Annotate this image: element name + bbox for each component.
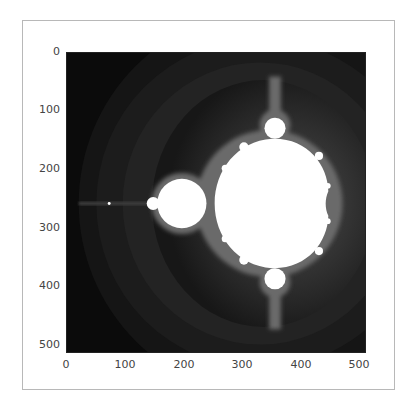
y-tick-label: 500 (24, 339, 60, 350)
y-tick-label: 100 (24, 104, 60, 115)
x-tick-label: 100 (105, 359, 145, 370)
y-tick-label: 200 (24, 163, 60, 174)
x-tick-label: 200 (164, 359, 204, 370)
fractal-image (66, 52, 366, 353)
y-tick-label: 400 (24, 280, 60, 291)
mandelbrot-heatmap (67, 53, 366, 353)
x-tick-label: 500 (339, 359, 379, 370)
y-tick-label: 0 (24, 46, 60, 57)
x-tick-label: 300 (222, 359, 262, 370)
x-tick-label: 0 (46, 359, 86, 370)
y-tick-label: 300 (24, 222, 60, 233)
x-tick-label: 400 (281, 359, 321, 370)
